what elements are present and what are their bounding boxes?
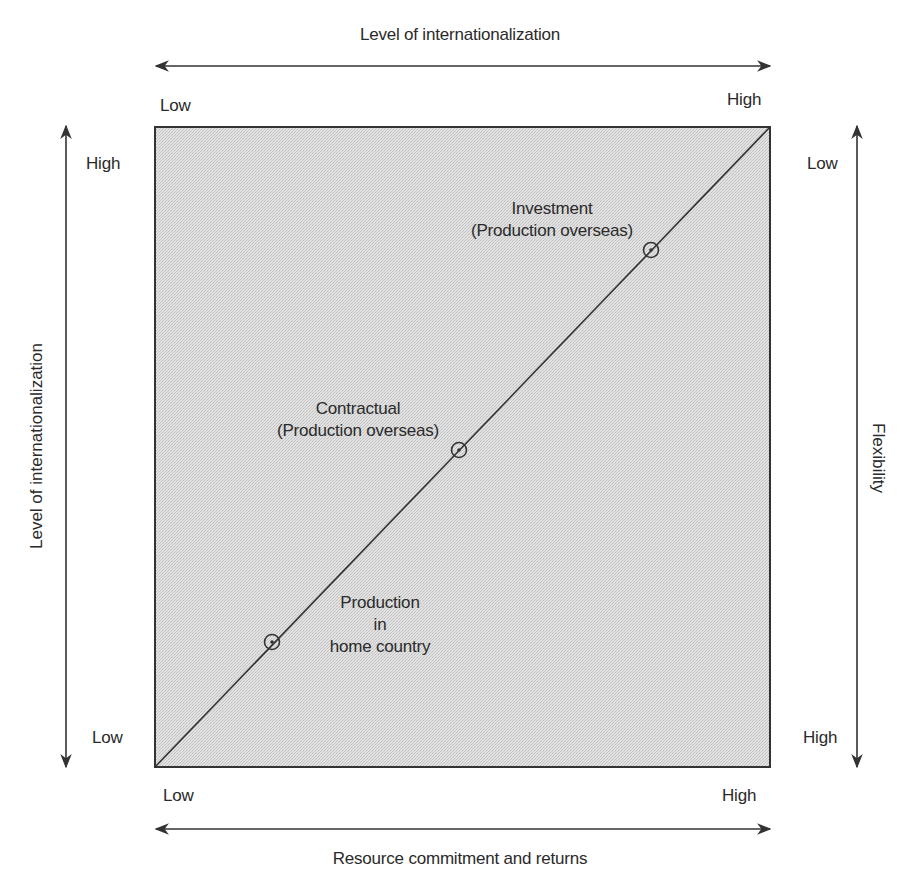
left-axis-title: Level of internationalization (27, 336, 47, 556)
top-axis-title: Level of internationalization (250, 25, 670, 45)
left-axis-low-label: Low (92, 728, 123, 748)
node-label-contractual-line2: (Production overseas) (268, 420, 448, 442)
bottom-axis-low-label: Low (163, 786, 194, 806)
right-axis-title: Flexibility (868, 398, 888, 518)
node-label-home-line3: home country (300, 636, 460, 658)
node-label-home-line1: Production (300, 592, 460, 614)
top-axis-high-label: High (727, 90, 761, 110)
bottom-axis-high-label: High (722, 786, 756, 806)
node-label-investment-line1: Investment (462, 198, 642, 220)
bottom-axis-title: Resource commitment and returns (250, 849, 670, 869)
top-axis-low-label: Low (160, 96, 191, 116)
left-axis-high-label: High (86, 154, 120, 174)
node-label-contractual: Contractual (Production overseas) (268, 398, 448, 442)
diagram-canvas (0, 0, 915, 883)
node-label-investment-line2: (Production overseas) (462, 220, 642, 242)
node-label-home: Production in home country (300, 592, 460, 658)
node-label-investment: Investment (Production overseas) (462, 198, 642, 242)
node-label-home-line2: in (300, 614, 460, 636)
node-label-contractual-line1: Contractual (268, 398, 448, 420)
right-axis-low-label: Low (807, 154, 838, 174)
right-axis-high-label: High (803, 728, 837, 748)
